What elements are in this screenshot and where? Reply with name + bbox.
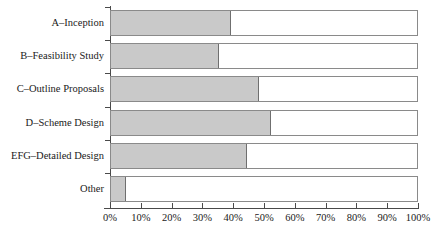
x-axis-tick-mark (141, 203, 142, 209)
y-axis-tick-mark (105, 140, 111, 141)
x-axis-tick-mark (418, 203, 419, 209)
x-axis-line (104, 208, 418, 209)
bar-row (110, 110, 418, 136)
y-axis-tick-label: A–Inception (4, 10, 104, 36)
bar-segment-filled (111, 44, 219, 68)
x-axis-tick-mark (326, 203, 327, 209)
x-axis-tick-label: 100% (398, 212, 438, 223)
y-axis-tick-label: B–Feasibility Study (4, 43, 104, 69)
y-axis-tick-label: C–Outline Proposals (4, 76, 104, 102)
bar-row (110, 43, 418, 69)
bar-segment-filled (111, 177, 126, 201)
plot-area (110, 8, 418, 208)
stacked-bar-chart: A–InceptionB–Feasibility StudyC–Outline … (0, 0, 439, 242)
bar-segment-filled (111, 77, 259, 101)
y-axis-tick-label: D–Scheme Design (4, 110, 104, 136)
bar-segment-filled (111, 111, 271, 135)
bar-row (110, 176, 418, 202)
bar-segment-filled (111, 144, 247, 168)
x-axis-tick-mark (387, 203, 388, 209)
x-axis-tick-mark (233, 203, 234, 209)
x-axis-tick-mark (110, 203, 111, 209)
bar-row (110, 10, 418, 36)
x-axis-tick-mark (264, 203, 265, 209)
y-axis-tick-label: Other (4, 176, 104, 202)
y-axis-tick-mark (105, 107, 111, 108)
bar-row (110, 76, 418, 102)
y-axis-tick-mark (105, 73, 111, 74)
y-axis-tick-mark (105, 173, 111, 174)
x-axis-tick-mark (295, 203, 296, 209)
bar-row (110, 143, 418, 169)
y-axis-tick-mark (105, 40, 111, 41)
y-axis-tick-mark (105, 7, 111, 8)
x-axis-tick-mark (172, 203, 173, 209)
x-axis-tick-mark (356, 203, 357, 209)
x-axis-tick-mark (202, 203, 203, 209)
y-axis-tick-label: EFG–Detailed Design (4, 143, 104, 169)
bar-segment-filled (111, 11, 231, 35)
